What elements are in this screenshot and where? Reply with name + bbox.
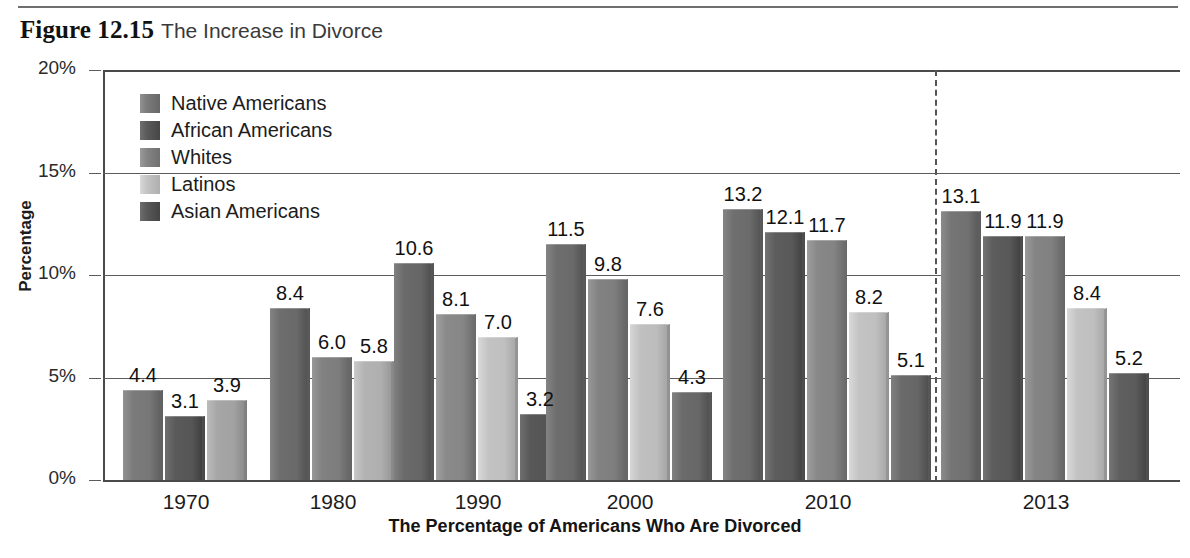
bar-value-label: 5.1 [897,349,925,372]
bar-value-label: 11.7 [808,214,845,237]
bar[interactable]: 8.4 [1067,308,1107,480]
y-axis-tick-label: 15% [0,160,76,182]
bar-value-label: 7.6 [636,298,664,321]
legend-item-whites[interactable]: Whites [140,144,332,171]
legend-label: Asian Americans [171,200,320,223]
bar[interactable]: 3.1 [165,416,205,480]
legend-swatch-icon [140,148,160,167]
bar-value-label: 9.8 [594,253,622,276]
legend-label: Whites [171,146,232,169]
legend-item-asian-americans[interactable]: Asian Americans [140,198,332,225]
bar-fill [672,392,712,480]
bar-value-label: 5.2 [1115,347,1143,370]
bar[interactable]: 4.3 [672,392,712,480]
bar-chart: Percentage 0%5%10%15%20% 4.43.13.98.46.0… [0,50,1190,558]
y-axis-tick-label: 0% [0,467,76,489]
bar[interactable]: 7.6 [630,324,670,480]
bar[interactable]: 11.9 [1025,236,1065,480]
bar[interactable]: 8.2 [849,312,889,480]
bar-value-label: 3.1 [171,390,199,413]
bar[interactable]: 12.1 [765,232,805,480]
bar-value-label: 4.4 [129,364,157,387]
y-axis-tick-mark [89,173,101,174]
bar-fill [436,314,476,480]
bar-value-label: 7.0 [484,311,512,334]
bar-fill [765,232,805,480]
bar-value-label: 8.4 [1073,282,1101,305]
bar[interactable]: 13.1 [941,211,981,480]
legend-label: African Americans [171,119,332,142]
header-rule [18,6,1178,8]
legend-item-african-americans[interactable]: African Americans [140,117,332,144]
x-axis-tick-label: 2000 [607,490,654,514]
bar[interactable]: 11.7 [807,240,847,480]
bar-fill [207,400,247,480]
bar[interactable]: 13.2 [723,209,763,480]
bar-value-label: 13.2 [724,183,763,206]
bar[interactable]: 5.8 [354,361,394,480]
bar-fill [270,308,310,480]
bar-fill [630,324,670,480]
bar-value-label: 3.9 [213,374,241,397]
bar-value-label: 13.1 [942,185,981,208]
bar-fill [394,263,434,480]
bar-value-label: 8.4 [276,282,304,305]
bar-fill [123,390,163,480]
page-title: Figure 12.15The Increase in Divorce [20,16,383,44]
legend-label: Native Americans [171,92,327,115]
bar[interactable]: 8.1 [436,314,476,480]
bar-fill [165,416,205,480]
bar-fill [807,240,847,480]
bar-fill [723,209,763,480]
legend-swatch-icon [140,94,160,113]
legend-swatch-icon [140,121,160,140]
legend-swatch-icon [140,202,160,221]
bar[interactable]: 11.5 [546,244,586,480]
period-divider [935,70,937,482]
y-axis-tick-mark [89,275,101,276]
bar[interactable]: 4.4 [123,390,163,480]
bar[interactable]: 6.0 [312,357,352,480]
bar[interactable]: 5.2 [1109,373,1149,480]
bar-fill [546,244,586,480]
bar-fill [1109,373,1149,480]
bar-fill [312,357,352,480]
bar-value-label: 8.1 [442,288,470,311]
x-axis-tick-label: 1970 [163,490,210,514]
figure-number: Figure 12.15 [20,16,154,43]
bar-value-label: 12.1 [766,206,805,229]
bar[interactable]: 10.6 [394,263,434,480]
bar-fill [478,337,518,481]
bar[interactable]: 5.1 [891,375,931,480]
bar-fill [891,375,931,480]
bar-value-label: 5.8 [360,335,388,358]
bar-value-label: 11.9 [1026,210,1063,233]
bar-value-label: 10.6 [395,237,434,260]
legend-item-native-americans[interactable]: Native Americans [140,90,332,117]
legend: Native AmericansAfrican AmericansWhitesL… [140,90,332,225]
figure-caption: The Increase in Divorce [161,19,383,42]
x-axis-tick-label: 2013 [1023,490,1070,514]
bar-fill [1025,236,1065,480]
bar-group-1990: 10.68.17.03.2 [394,70,562,482]
y-axis-title: Percentage [16,186,36,306]
bar[interactable]: 11.9 [983,236,1023,480]
x-axis-tick-label: 1990 [455,490,502,514]
bar[interactable]: 3.9 [207,400,247,480]
legend-label: Latinos [171,173,236,196]
legend-swatch-icon [140,175,160,194]
bar-fill [588,279,628,480]
legend-item-latinos[interactable]: Latinos [140,171,332,198]
x-axis-tick-label: 2010 [805,490,852,514]
bar[interactable]: 9.8 [588,279,628,480]
bar-group-2013: 13.111.911.98.45.2 [941,70,1149,482]
bar-value-label: 4.3 [678,366,706,389]
bar[interactable]: 7.0 [478,337,518,481]
bar-value-label: 11.5 [547,218,584,241]
y-axis-tick-mark [89,70,101,71]
bar-fill [941,211,981,480]
bar[interactable]: 8.4 [270,308,310,480]
y-axis-tick-label: 20% [0,57,76,79]
bar-value-label: 11.9 [984,210,1021,233]
bar-fill [983,236,1023,480]
